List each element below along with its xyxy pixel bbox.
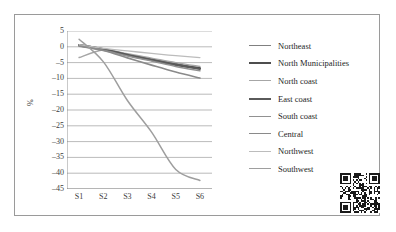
chart-legend: NortheastNorth MunicipalitiesNorth coast… (249, 37, 379, 178)
x-tick-label: S3 (117, 192, 137, 202)
x-tick-label: S4 (142, 192, 162, 202)
y-tick-label: –5 (56, 59, 64, 67)
legend-swatch-icon (249, 168, 271, 169)
legend-swatch-icon (249, 45, 271, 46)
legend-label: North Municipalities (278, 58, 349, 68)
chart-figure: % 50–5–10–15–20–25–30–35–40–45 S1S2S3S4S… (0, 0, 396, 232)
y-tick-label: –40 (52, 169, 64, 177)
y-tick-label: 5 (60, 27, 64, 35)
legend-item-central[interactable]: Central (249, 125, 379, 143)
legend-swatch-icon (249, 151, 271, 152)
y-tick-label: –30 (52, 138, 64, 146)
legend-item-east-coast[interactable]: East coast (249, 90, 379, 108)
legend-item-northwest[interactable]: Northwest (249, 143, 379, 161)
x-axis-tick-labels: S1S2S3S4S5S6 (67, 192, 212, 206)
x-tick-label: S5 (166, 192, 186, 202)
legend-swatch-icon (249, 133, 271, 134)
legend-item-south-coast[interactable]: South coast (249, 107, 379, 125)
legend-label: Southwest (278, 164, 313, 174)
y-tick-label: –25 (52, 122, 64, 130)
y-tick-label: –15 (52, 90, 64, 98)
y-tick-label: 0 (60, 43, 64, 51)
x-tick-label: S1 (69, 192, 89, 202)
legend-item-north-municipalities[interactable]: North Municipalities (249, 55, 379, 73)
plot-area (67, 31, 212, 189)
y-axis-title: % (26, 99, 35, 106)
legend-label: Northwest (278, 146, 313, 156)
legend-item-north-coast[interactable]: North coast (249, 72, 379, 90)
qr-code-icon (340, 173, 380, 213)
legend-label: Northeast (278, 41, 311, 51)
y-tick-label: –10 (52, 74, 64, 82)
x-tick-label: S2 (93, 192, 113, 202)
line-chart-svg (67, 31, 212, 189)
legend-label: East coast (278, 94, 312, 104)
legend-label: North coast (278, 76, 317, 86)
legend-swatch-icon (249, 62, 271, 64)
legend-swatch-icon (249, 80, 271, 81)
legend-label: Central (278, 129, 303, 139)
y-axis-tick-labels: 50–5–10–15–20–25–30–35–40–45 (40, 25, 64, 195)
y-tick-label: –20 (52, 106, 64, 114)
legend-item-northeast[interactable]: Northeast (249, 37, 379, 55)
legend-swatch-icon (249, 98, 271, 100)
y-tick-label: –45 (52, 185, 64, 193)
legend-swatch-icon (249, 116, 271, 117)
gridlines (67, 31, 212, 189)
legend-label: South coast (278, 111, 317, 121)
x-tick-label: S6 (190, 192, 210, 202)
y-tick-label: –35 (52, 153, 64, 161)
